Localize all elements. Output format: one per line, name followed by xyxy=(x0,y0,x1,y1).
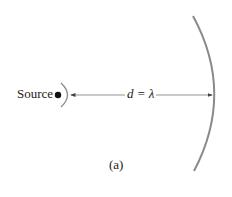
wavefront-arc xyxy=(61,83,68,107)
curved-mirror xyxy=(193,16,214,171)
figure-caption: (a) xyxy=(109,157,123,173)
point-source-dot xyxy=(55,92,61,98)
source-label: Source xyxy=(17,86,53,102)
distance-label: d = λ xyxy=(125,86,156,102)
